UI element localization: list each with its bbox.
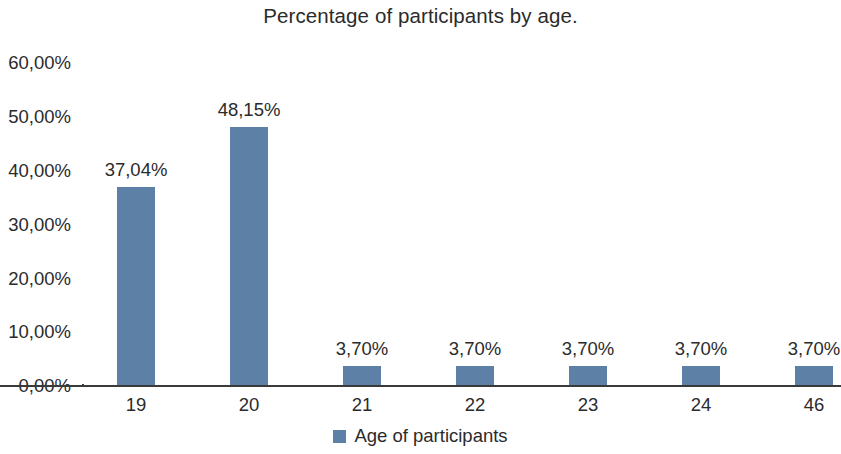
y-axis-tick-label-30: 30,00% [0,216,71,234]
bar-19[interactable] [117,187,155,386]
y-axis-tick-label-40: 40,00% [0,162,71,180]
bar-value-label-24: 3,70% [675,339,727,359]
bar-20[interactable] [230,127,268,386]
legend-label-age-of-participants: Age of participants [354,425,507,447]
bar-value-label-22: 3,70% [449,339,501,359]
y-axis-tick-label-10: 10,00% [0,323,71,341]
x-axis-tick-label-19: 19 [82,394,190,416]
chart-title: Percentage of participants by age. [0,2,841,30]
legend-swatch-icon [333,430,346,443]
bar-group-19: 37,04% [82,46,190,386]
plot-area: 37,04% 48,15% 3,70% 3,70% 3,70% 3,70% 3,… [82,46,841,386]
bar-value-label-20: 48,15% [218,100,281,120]
bar-value-label-23: 3,70% [562,339,614,359]
bar-46[interactable] [795,366,833,386]
bar-24[interactable] [682,366,720,386]
x-axis-tick-label-24: 24 [647,394,755,416]
bar-group-20: 48,15% [195,46,303,386]
x-axis-line [0,385,841,387]
bar-22[interactable] [456,366,494,386]
bar-group-46: 3,70% [760,46,841,386]
bar-value-label-19: 37,04% [105,160,168,180]
bar-23[interactable] [569,366,607,386]
x-axis-tick-label-21: 21 [308,394,416,416]
x-axis-tick-label-23: 23 [534,394,642,416]
bar-21[interactable] [343,366,381,386]
bar-group-23: 3,70% [534,46,642,386]
bar-value-label-46: 3,70% [788,339,840,359]
bar-group-22: 3,70% [421,46,529,386]
x-axis-tick-label-20: 20 [195,394,303,416]
y-axis-tick-mark [82,384,84,387]
y-axis-tick-label-20: 20,00% [0,270,71,288]
x-axis-tick-label-22: 22 [421,394,529,416]
bar-group-21: 3,70% [308,46,416,386]
y-axis-tick-label-60: 60,00% [0,54,71,72]
bar-chart: Percentage of participants by age. 60,00… [0,0,841,454]
x-axis-tick-label-46: 46 [760,394,841,416]
bar-value-label-21: 3,70% [336,339,388,359]
chart-legend: Age of participants [0,425,841,447]
y-axis-tick-label-50: 50,00% [0,108,71,126]
bar-group-24: 3,70% [647,46,755,386]
